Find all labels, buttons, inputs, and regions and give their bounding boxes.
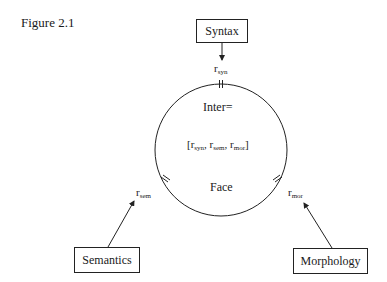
syntax-box: Syntax <box>196 19 248 43</box>
circle-top-label: Inter= <box>203 100 232 115</box>
morphology-arrow <box>304 203 332 248</box>
circle-middle-label: [rsyn, rsem, rmor] <box>187 138 249 152</box>
circle-bottom-label: Face <box>210 180 233 195</box>
semantics-label: Semantics <box>82 253 131 268</box>
figure-title: Figure 2.1 <box>21 15 74 31</box>
mor-tick-icon <box>273 175 282 182</box>
r-syn-label: rsyn <box>214 62 227 76</box>
syntax-label: Syntax <box>205 24 238 39</box>
r-mor-label: rmor <box>288 186 303 200</box>
semantics-box: Semantics <box>74 247 140 273</box>
semantics-arrow <box>108 201 134 247</box>
r-sem-label: rsem <box>136 186 151 200</box>
morphology-label: Morphology <box>301 254 361 269</box>
morphology-box: Morphology <box>293 248 368 274</box>
